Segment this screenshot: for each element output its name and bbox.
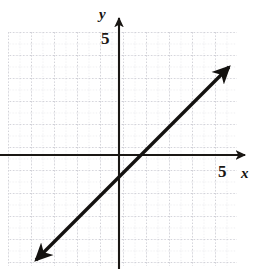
- graph-figure: y x 5 5: [0, 0, 253, 269]
- y-axis-label: y: [99, 7, 106, 22]
- x-axis-tick-label-5: 5: [218, 163, 227, 180]
- y-axis-tick-label-5: 5: [101, 30, 110, 47]
- x-axis-label: x: [241, 166, 249, 181]
- grid-major: [8, 32, 237, 266]
- coordinate-plane-plot: [0, 0, 253, 269]
